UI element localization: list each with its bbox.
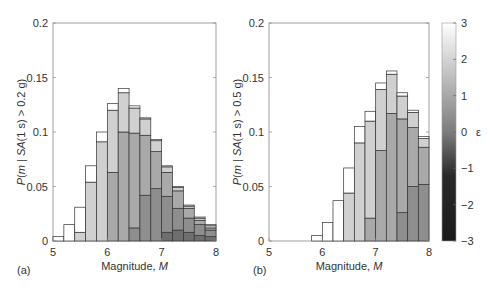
panel-a: 00.050.10.150.25678Magnitude, MP(m | SA(… [15, 17, 219, 272]
bar-segment [418, 136, 429, 138]
bar-segment [53, 237, 64, 241]
bar-segment [365, 111, 376, 121]
bar-segment [129, 133, 140, 228]
bar-segment [408, 128, 419, 187]
bar-segment [312, 236, 323, 241]
bar-segment [205, 225, 216, 226]
bar-segment [118, 132, 129, 241]
bar-segment [183, 205, 194, 206]
y-tick-label: 0.05 [27, 181, 48, 193]
bar-segment [118, 88, 129, 92]
bar-segment [151, 140, 162, 141]
y-axis-label: P(m | SA(1 s) > 0.5 g) [231, 79, 243, 186]
bar-segment [173, 191, 184, 208]
x-tick-label: 7 [373, 246, 379, 258]
bar-segment [397, 119, 408, 213]
bar-segment [344, 193, 355, 241]
bar-segment [75, 207, 86, 232]
bar-segment [397, 96, 408, 119]
bar-segment [194, 220, 205, 224]
bar-segment [162, 232, 173, 241]
colorbar-tick-label: 0 [461, 126, 467, 138]
bar-segment [408, 110, 419, 112]
bar-segment [173, 187, 184, 188]
bar-segment [140, 119, 151, 135]
x-tick-label: 5 [266, 246, 272, 258]
bar-segment [205, 237, 216, 241]
bar-segment [183, 208, 194, 218]
bar-segment [140, 195, 151, 241]
bar-segment [107, 104, 118, 111]
bar-segment [162, 196, 173, 232]
panel-a-label: (a) [17, 264, 30, 276]
bar-segment [173, 188, 184, 191]
bar-segment [365, 121, 376, 218]
bar-segment [86, 182, 97, 241]
panel-b-label: (b) [253, 264, 266, 276]
colorbar: 3210−1−2−3 ε [442, 17, 481, 247]
bar-segment [86, 166, 97, 182]
colorbar-tick-label: −3 [461, 235, 474, 247]
colorbar-tick-label: −1 [461, 162, 474, 174]
y-tick-label: 0.1 [249, 126, 264, 138]
bar-segment [129, 106, 140, 108]
bar-segment [205, 230, 216, 237]
bar-segment [96, 142, 107, 241]
y-axis-label: P(m | SA(1 s) > 0.2 g) [15, 79, 27, 186]
y-tick-label: 0.2 [249, 17, 264, 29]
panel-b: 00.050.10.150.25678Magnitude, MP(m | SA(… [231, 17, 432, 272]
y-tick-label: 0.2 [33, 17, 48, 29]
bar-segment [397, 213, 408, 241]
bar-segment [397, 93, 408, 96]
bar-segment [194, 236, 205, 241]
x-tick-label: 6 [104, 246, 110, 258]
bar-segment [418, 147, 429, 184]
y-tick-label: 0.15 [27, 72, 48, 84]
y-tick-label: 0.15 [243, 72, 264, 84]
bar-segment [365, 218, 376, 241]
x-tick-label: 7 [159, 246, 165, 258]
bar-segment [194, 217, 205, 218]
bar-segment [376, 83, 387, 90]
bar-segment [173, 230, 184, 241]
y-tick-label: 0 [258, 235, 264, 247]
bar-segment [418, 184, 429, 241]
bar-segment [376, 151, 387, 241]
colorbar-tick-label: 1 [461, 90, 467, 102]
bar-segment [118, 93, 129, 132]
bar-segment [183, 218, 194, 232]
bar-segment [129, 228, 140, 241]
bar-segment [96, 132, 107, 142]
x-tick-label: 8 [426, 246, 432, 258]
bar-segment [354, 127, 365, 143]
bar-segment [418, 139, 429, 148]
bar-segment [162, 167, 173, 172]
bar-segment [162, 166, 173, 167]
bar-segment [64, 225, 75, 241]
bar-segment [376, 89, 387, 150]
y-tick-label: 0 [42, 235, 48, 247]
bar-segment [354, 143, 365, 241]
bar-segment [333, 201, 344, 241]
bar-segment [140, 135, 151, 195]
bar-segment [162, 172, 173, 196]
bar-segment [107, 110, 118, 172]
x-tick-label: 5 [50, 246, 56, 258]
bar-segment [344, 168, 355, 193]
y-tick-label: 0.05 [243, 181, 264, 193]
bar-segment [151, 141, 162, 152]
bar-segment [183, 232, 194, 241]
bar-segment [173, 208, 184, 230]
bar-segment [75, 232, 86, 241]
bar-segment [408, 112, 419, 127]
x-axis-label: Magnitude, M [101, 260, 168, 272]
colorbar-label: ε [476, 126, 481, 138]
bar-segment [386, 113, 397, 241]
colorbar-tick-label: 3 [461, 17, 467, 29]
bar-segment [386, 71, 397, 74]
x-tick-label: 8 [213, 246, 219, 258]
bar-segment [322, 222, 333, 241]
figure: 00.050.10.150.25678Magnitude, MP(m | SA(… [0, 0, 492, 296]
colorbar-tick-label: −2 [461, 199, 474, 211]
bar-segment [386, 74, 397, 113]
